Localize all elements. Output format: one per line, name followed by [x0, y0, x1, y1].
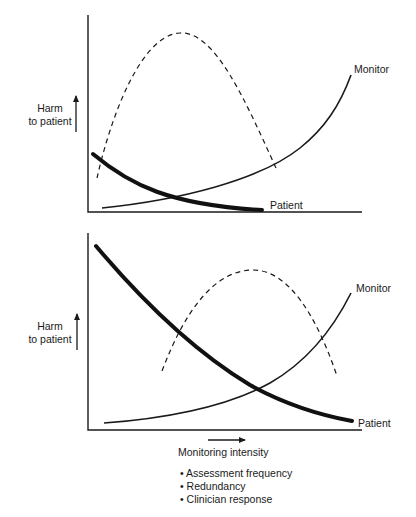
top-patient-label: Patient — [270, 199, 303, 211]
top-total-harm-curve — [97, 33, 276, 178]
top-panel: Monitor Patient Harm to patient — [28, 15, 389, 212]
top-monitor-curve — [102, 75, 351, 208]
x-axis-label: Monitoring intensity — [178, 446, 269, 458]
bottom-panel: Monitor Patient Harm to patient — [28, 233, 391, 430]
x-bullet-1: • Assessment frequency — [180, 467, 293, 479]
bottom-y-label-line1: Harm — [37, 320, 63, 332]
bottom-y-label-line2: to patient — [28, 333, 71, 345]
bottom-total-harm-curve — [162, 270, 337, 376]
x-axis-caption: Monitoring intensity • Assessment freque… — [178, 440, 293, 505]
top-patient-curve — [93, 154, 262, 210]
bottom-axes — [88, 233, 362, 430]
bottom-monitor-label: Monitor — [356, 282, 392, 294]
x-bullet-3: • Clinician response — [180, 493, 273, 505]
top-y-label-line2: to patient — [28, 115, 71, 127]
bottom-patient-curve — [96, 246, 352, 421]
bottom-monitor-curve — [104, 293, 351, 423]
x-bullet-2: • Redundancy — [180, 480, 246, 492]
top-axes — [88, 15, 362, 212]
bottom-patient-label: Patient — [358, 417, 391, 429]
top-y-label-line1: Harm — [37, 102, 63, 114]
top-monitor-label: Monitor — [354, 63, 390, 75]
diagram-canvas: Monitor Patient Harm to patient Monitor … — [0, 0, 416, 517]
